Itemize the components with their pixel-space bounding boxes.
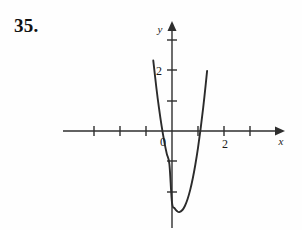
y-axis-arrow-icon bbox=[168, 21, 177, 31]
origin-label: 0 bbox=[160, 135, 166, 149]
x-axis-label: x bbox=[278, 135, 284, 147]
coordinate-plot-svg: y x 0 2 2 bbox=[0, 0, 302, 230]
x-tick-2-label: 2 bbox=[222, 137, 228, 151]
figure-container: 35. y x bbox=[0, 0, 302, 230]
y-axis-label: y bbox=[157, 23, 163, 35]
coordinate-graph: y x 0 2 2 bbox=[0, 0, 302, 230]
y-tick-2-label: 2 bbox=[156, 64, 162, 78]
